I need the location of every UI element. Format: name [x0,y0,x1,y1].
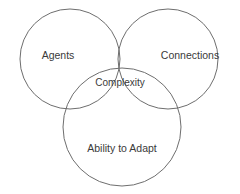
diagram-background [0,0,240,194]
venn-label-agents: Agents [42,49,75,61]
venn-label-complexity: Complexity [95,77,144,88]
venn-diagram-svg: Agents Connections Complexity Ability to… [0,0,240,194]
venn-label-connections: Connections [161,49,219,61]
venn-label-ability-to-adapt: Ability to Adapt [87,142,157,154]
